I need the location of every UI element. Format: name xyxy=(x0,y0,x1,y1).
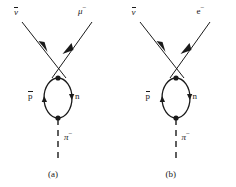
diagram-panel-b: ν e− p n π− (b) xyxy=(118,0,236,187)
incoming-antineutrino-arrowhead-b xyxy=(156,41,165,52)
diagram-a-canvas xyxy=(0,0,117,187)
panel-caption-a: (a) xyxy=(48,169,58,179)
panel-caption-b: (b) xyxy=(166,169,177,179)
top-vertex-a xyxy=(55,75,60,80)
incoming-antineutrino-line-b xyxy=(140,22,184,78)
outgoing-lepton-arrowhead-a xyxy=(63,43,74,54)
loop-right-label-a: n xyxy=(75,92,80,101)
feynman-figure: ν μ− p n π− (a) ν e− p n π− (b) xyxy=(0,0,235,187)
diagram-b-canvas xyxy=(118,0,235,187)
outgoing-lepton-label-b: e− xyxy=(197,7,205,16)
incoming-antineutrino-line-a xyxy=(22,22,66,78)
diagram-panel-a: ν μ− p n π− (a) xyxy=(0,0,118,187)
nucleon-loop-b xyxy=(162,78,190,118)
incoming-arrow-a xyxy=(39,41,48,52)
pion-label-a: π− xyxy=(64,133,72,142)
loop-left-arrowhead-b xyxy=(159,96,164,102)
loop-left-arrowhead-a xyxy=(42,96,47,102)
incoming-antineutrino-label-a: ν xyxy=(14,8,18,17)
loop-right-arrowhead-b xyxy=(187,94,192,100)
top-vertex-b xyxy=(173,75,178,80)
loop-left-label-a: p xyxy=(28,92,33,101)
pion-label-b: π− xyxy=(182,133,190,142)
loop-left-label-b: p xyxy=(146,92,151,101)
nucleon-loop-a xyxy=(44,78,72,118)
loop-right-arrowhead-a xyxy=(69,94,74,100)
incoming-antineutrino-label-b: ν xyxy=(132,8,136,17)
outgoing-lepton-label-a: μ− xyxy=(78,7,86,16)
outgoing-lepton-arrowhead-b xyxy=(180,43,191,54)
loop-right-label-b: n xyxy=(193,92,198,101)
